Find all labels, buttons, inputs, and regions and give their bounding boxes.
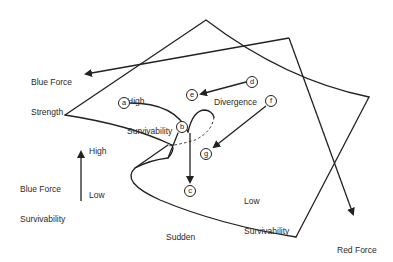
survivability-low-label: Low: [89, 190, 105, 200]
label-line: Strength: [31, 107, 72, 117]
label-line: Survivability: [244, 226, 289, 236]
trajectory-b-up: [188, 110, 214, 132]
red-force-strength-arrow: [289, 38, 353, 214]
blue-force-strength-arrow: [86, 38, 289, 74]
divergence-label: Divergence: [214, 97, 257, 107]
arrow-d-to-e: [201, 82, 246, 94]
point-f: f: [265, 95, 277, 107]
point-g: g: [200, 148, 212, 160]
label-line: Survivability: [127, 126, 172, 136]
blue-force-strength-label: Blue Force Strength: [31, 57, 72, 137]
high-survivability-region-label: High Survivability: [127, 76, 172, 156]
label-line: Red Force: [337, 245, 377, 255]
label-line: High: [127, 96, 172, 106]
label-line: Blue Force: [31, 77, 72, 87]
point-c: c: [184, 185, 196, 197]
label-line: Sudden: [166, 232, 213, 242]
point-a: a: [118, 97, 130, 109]
low-survivability-region-label: Low Survivability: [244, 176, 289, 256]
blue-force-survivability-label: Blue Force Survivability: [20, 164, 65, 244]
label-line: Survivability: [20, 214, 65, 224]
surface-right-edge: [296, 97, 369, 237]
label-line: Low: [244, 196, 289, 206]
sudden-reduction-label: Sudden Reduction in Blue Force Survivabi…: [166, 212, 213, 262]
point-d: d: [246, 76, 258, 88]
label-line: Blue Force: [20, 184, 65, 194]
survivability-high-label: High: [89, 146, 106, 156]
arrow-f-to-g: [214, 106, 266, 147]
cusp-catastrophe-diagram: Blue Force Strength Red Force Strength B…: [0, 0, 393, 262]
point-e: e: [186, 89, 198, 101]
red-force-strength-label: Red Force Strength: [337, 225, 377, 262]
point-b: b: [176, 121, 188, 133]
